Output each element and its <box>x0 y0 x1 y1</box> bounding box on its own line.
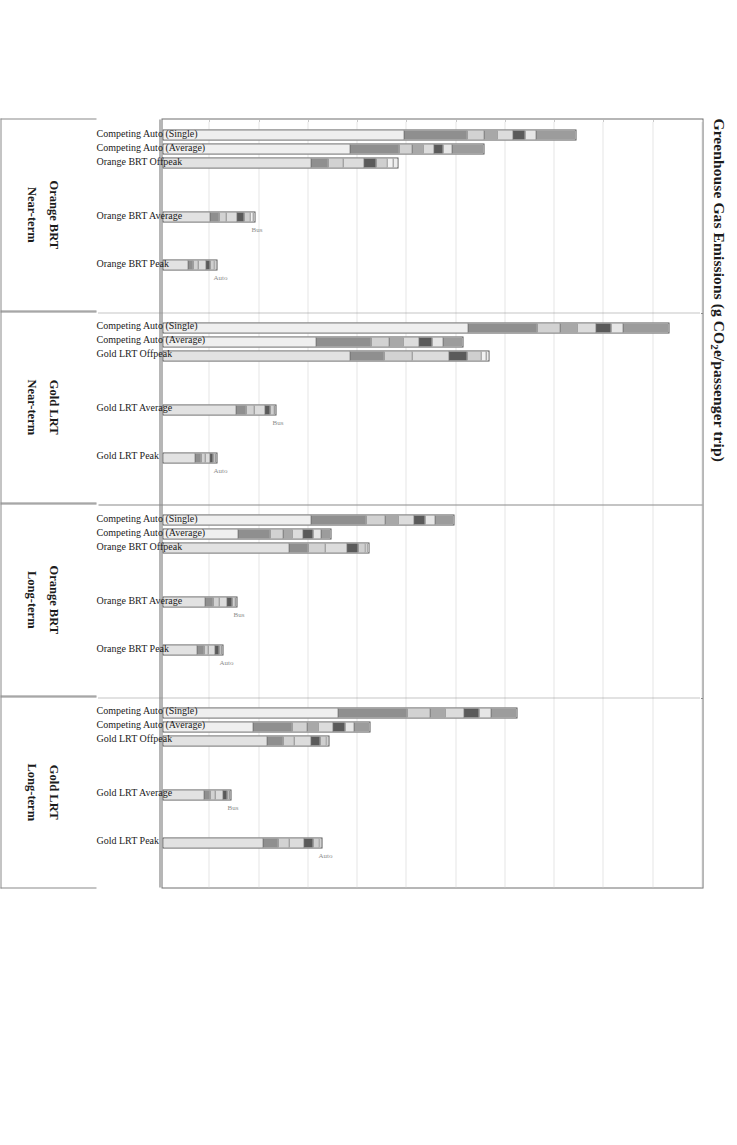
bar-segment <box>595 323 610 332</box>
bar-segment <box>277 838 288 847</box>
stacked-bar[interactable] <box>162 542 369 553</box>
bar-segment <box>433 144 442 153</box>
group-name-line1: Gold LRT <box>45 312 60 503</box>
category-label: Competing Auto (Average) <box>96 526 205 537</box>
stacked-bar[interactable] <box>162 837 322 848</box>
gridline <box>405 119 406 887</box>
bar-segment <box>357 543 364 552</box>
bar-segment <box>353 722 369 731</box>
bar-segment <box>237 529 269 538</box>
rotated-figure: Greenhouse Gas Emissions (g CO2e/passeng… <box>0 0 737 1145</box>
bar-segment <box>288 543 308 552</box>
bar-segment <box>478 708 491 717</box>
bar-segment <box>293 736 310 745</box>
bar-segment <box>320 529 331 538</box>
category-label: Competing Auto (Average) <box>96 141 205 152</box>
bar-segment <box>204 597 212 606</box>
bar-segment <box>467 323 536 332</box>
bar-segment <box>386 158 392 167</box>
gridline <box>258 119 259 887</box>
stacked-bar[interactable] <box>162 143 484 154</box>
stacked-bar[interactable] <box>162 452 217 463</box>
category-label: Gold LRT Average <box>96 786 172 797</box>
gridline <box>504 119 505 887</box>
bar-segment <box>163 158 310 167</box>
bar-segment <box>315 337 370 346</box>
category-label: Competing Auto (Average) <box>96 333 205 344</box>
bar-segment <box>397 515 413 524</box>
bar-segment <box>187 260 193 269</box>
bar-annotation: Auto <box>318 851 332 859</box>
bar-segment <box>269 405 273 414</box>
bar-segment <box>243 212 249 221</box>
stacked-bar[interactable] <box>162 735 329 746</box>
bar-segment <box>163 838 262 847</box>
bar-segment <box>431 337 442 346</box>
bar-segment <box>312 529 320 538</box>
bar-segment <box>226 597 231 606</box>
bar-segment <box>196 645 203 654</box>
gridline <box>602 119 603 887</box>
stacked-bar[interactable] <box>162 322 670 333</box>
bar-segment <box>332 722 344 731</box>
category-label: Orange BRT Offpeak <box>96 540 182 551</box>
category-label: Gold LRT Offpeak <box>96 732 172 743</box>
category-label: Competing Auto (Single) <box>96 704 197 715</box>
stacked-bar[interactable] <box>162 350 489 361</box>
chart-page: Greenhouse Gas Emissions (g CO2e/passeng… <box>0 0 737 1145</box>
group-name-line2: Near-term <box>23 312 38 503</box>
bar-segment <box>218 597 227 606</box>
group-box: Orange BRTNear-term <box>0 118 96 311</box>
stacked-bar[interactable] <box>162 707 517 718</box>
bar-segment <box>392 158 398 167</box>
group-name-line2: Long-term <box>23 697 38 888</box>
gridline <box>455 119 456 887</box>
category-label: Competing Auto (Average) <box>96 718 205 729</box>
bar-segment <box>197 260 205 269</box>
bar-segment <box>204 453 210 462</box>
bar-segment <box>535 130 575 139</box>
stacked-bar[interactable] <box>162 336 463 347</box>
bar-annotation: Auto <box>213 273 227 281</box>
group-box: Gold LRTLong-term <box>0 696 96 889</box>
stacked-bar[interactable] <box>162 157 399 168</box>
category-label: Orange BRT Offpeak <box>96 155 182 166</box>
bar-segment <box>163 351 349 360</box>
bar-segment <box>222 790 226 799</box>
group-name-line1: Gold LRT <box>45 697 60 888</box>
category-label: Gold LRT Peak <box>96 834 159 845</box>
bar-segment <box>163 736 266 745</box>
bar-annotation: Bus <box>227 803 238 811</box>
group-box: Orange BRTLong-term <box>0 503 96 696</box>
bar-segment <box>483 130 497 139</box>
bar-segment <box>384 515 397 524</box>
bar-segment <box>310 515 365 524</box>
category-label: Competing Auto (Single) <box>96 319 197 330</box>
bar-segment <box>346 543 357 552</box>
bar-segment <box>269 529 282 538</box>
bar-segment <box>163 130 403 139</box>
stacked-bar[interactable] <box>162 404 276 415</box>
stacked-bar[interactable] <box>162 644 223 655</box>
bar-segment <box>388 337 402 346</box>
category-label: Gold LRT Offpeak <box>96 347 172 358</box>
category-label: Orange BRT Average <box>96 594 182 605</box>
bar-segment <box>225 212 237 221</box>
bar-segment <box>266 736 282 745</box>
stacked-bar[interactable] <box>162 514 454 525</box>
bar-segment <box>235 405 246 414</box>
bar-segment <box>442 144 451 153</box>
bar-segment <box>253 405 264 414</box>
bar-segment <box>209 212 218 221</box>
bar-segment <box>203 645 208 654</box>
bar-segment <box>262 838 277 847</box>
bar-segment <box>363 158 375 167</box>
stacked-bar[interactable] <box>162 259 217 270</box>
group-name-line1: Orange BRT <box>45 504 60 695</box>
bar-segment <box>214 645 218 654</box>
stacked-bar[interactable] <box>162 129 576 140</box>
bar-segment <box>496 130 512 139</box>
bar-segment <box>218 212 225 221</box>
bar-segment <box>402 337 419 346</box>
bar-segment <box>205 260 210 269</box>
